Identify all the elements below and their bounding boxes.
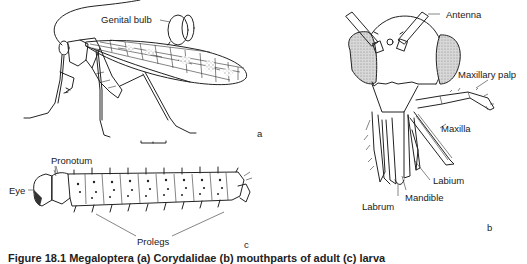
maxillary-palp-leader: [476, 80, 488, 88]
label-eye: Eye: [9, 186, 25, 196]
label-labium: Labium: [433, 176, 464, 186]
label-labrum: Labrum: [362, 202, 394, 212]
figure-caption: Figure 18.1 Megaloptera (a) Corydalidae …: [8, 253, 527, 264]
panel-letter-b: b: [487, 223, 492, 233]
label-prolegs: Prolegs: [137, 237, 169, 247]
label-maxillary-palp: Maxillary palp: [458, 70, 516, 80]
label-genital-bulb: Genital bulb: [101, 15, 152, 25]
panel-letter-c: c: [244, 240, 249, 250]
head-frontal-drawing: [346, 12, 494, 196]
label-antenna: Antenna: [446, 10, 481, 20]
genital-bulb-leader: [160, 20, 170, 22]
label-mandible: Mandible: [405, 193, 444, 203]
larva-drawing: [28, 166, 252, 236]
prolegs-leader-left: [96, 214, 136, 236]
panel-letter-a: a: [257, 129, 262, 139]
label-maxilla: Maxilla: [441, 124, 471, 134]
prolegs-leader-right: [172, 212, 224, 236]
label-pronotum: Pronotum: [51, 156, 92, 166]
